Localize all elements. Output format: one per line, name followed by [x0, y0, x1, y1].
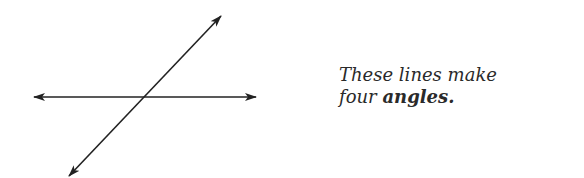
intersecting-lines-figure — [0, 0, 300, 178]
caption: These lines make four angles. — [339, 64, 497, 108]
caption-line-2: four angles. — [339, 86, 497, 108]
angles-term: angles. — [382, 86, 454, 107]
diagonal-line — [69, 16, 221, 176]
caption-line-1: These lines make — [339, 64, 497, 86]
lines-diagram — [0, 0, 300, 178]
